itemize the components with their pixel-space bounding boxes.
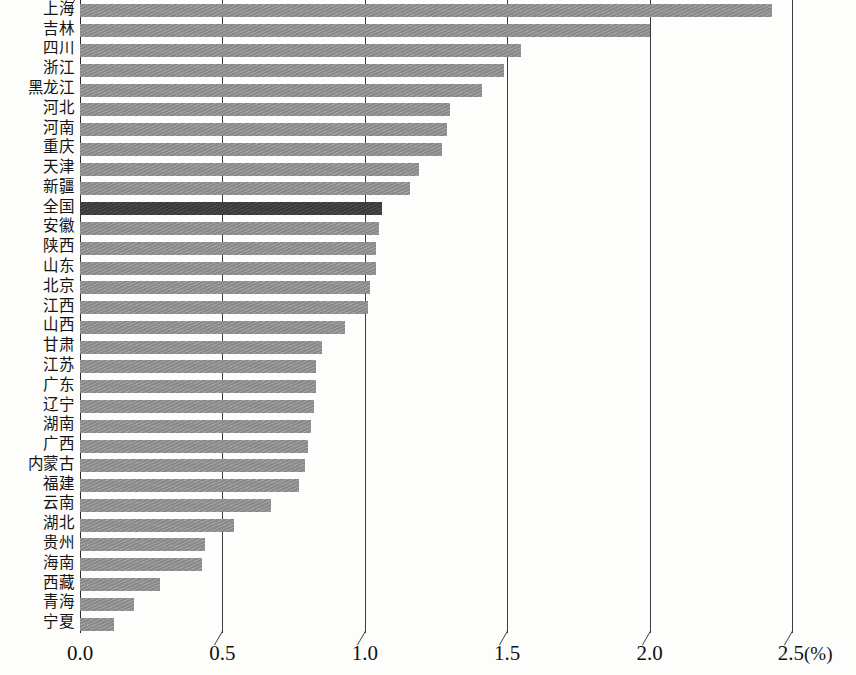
category-label-山西: 山西 bbox=[43, 318, 74, 334]
x-tick-label-0.0: 0.0 bbox=[67, 641, 93, 666]
bar-浙江 bbox=[80, 64, 504, 77]
bar-河北 bbox=[80, 103, 450, 116]
bar-江苏 bbox=[80, 360, 316, 373]
bar-安徽 bbox=[80, 222, 379, 235]
category-label-甘肃: 甘肃 bbox=[43, 338, 74, 354]
category-label-湖南: 湖南 bbox=[43, 417, 74, 433]
category-label-安徽: 安徽 bbox=[43, 219, 74, 235]
x-tick-label-1.0: 1.0 bbox=[352, 641, 378, 666]
bar-湖南 bbox=[80, 420, 311, 433]
category-label-内蒙古: 内蒙古 bbox=[28, 457, 75, 473]
category-label-广东: 广东 bbox=[43, 378, 74, 394]
category-label-北京: 北京 bbox=[43, 279, 74, 295]
category-label-新疆: 新疆 bbox=[43, 180, 74, 196]
x-tick-label-1.5: 1.5 bbox=[494, 641, 520, 666]
gridline-2.0 bbox=[650, 0, 651, 633]
x-tick-label-2.5: 2.5(%) bbox=[778, 641, 833, 666]
bar-黑龙江 bbox=[80, 84, 482, 97]
category-label-全国: 全国 bbox=[43, 200, 74, 216]
bar-海南 bbox=[80, 558, 202, 571]
bar-内蒙古 bbox=[80, 459, 305, 472]
bar-辽宁 bbox=[80, 400, 314, 413]
category-label-海南: 海南 bbox=[43, 556, 74, 572]
category-label-山东: 山东 bbox=[43, 259, 74, 275]
category-label-青海: 青海 bbox=[43, 595, 74, 611]
bar-宁夏 bbox=[80, 618, 114, 631]
category-label-河北: 河北 bbox=[43, 101, 74, 117]
category-label-天津: 天津 bbox=[43, 160, 74, 176]
category-label-四川: 四川 bbox=[43, 41, 74, 57]
category-label-重庆: 重庆 bbox=[43, 140, 74, 156]
bar-广西 bbox=[80, 440, 308, 453]
plot-area bbox=[80, 0, 792, 633]
bar-西藏 bbox=[80, 578, 160, 591]
category-label-云南: 云南 bbox=[43, 496, 74, 512]
bar-河南 bbox=[80, 123, 447, 136]
category-label-湖北: 湖北 bbox=[43, 516, 74, 532]
category-axis-labels: 上海吉林四川浙江黑龙江河北河南重庆天津新疆全国安徽陕西山东北京江西山西甘肃江苏广… bbox=[0, 0, 78, 633]
category-label-辽宁: 辽宁 bbox=[43, 398, 74, 414]
bar-北京 bbox=[80, 281, 370, 294]
category-label-宁夏: 宁夏 bbox=[43, 615, 74, 631]
category-label-浙江: 浙江 bbox=[43, 61, 74, 77]
bar-山西 bbox=[80, 321, 345, 334]
category-label-河南: 河南 bbox=[43, 121, 74, 137]
category-label-黑龙江: 黑龙江 bbox=[28, 81, 75, 97]
category-label-江西: 江西 bbox=[43, 299, 74, 315]
bar-chart: 上海吉林四川浙江黑龙江河北河南重庆天津新疆全国安徽陕西山东北京江西山西甘肃江苏广… bbox=[0, 0, 856, 675]
bar-天津 bbox=[80, 163, 419, 176]
bar-福建 bbox=[80, 479, 299, 492]
x-tick-label-0.5: 0.5 bbox=[209, 641, 235, 666]
category-label-福建: 福建 bbox=[43, 477, 74, 493]
x-axis: 0.00.51.01.52.02.5(%) bbox=[0, 633, 856, 675]
bar-贵州 bbox=[80, 538, 205, 551]
gridline-2.5 bbox=[792, 0, 793, 633]
bar-江西 bbox=[80, 301, 368, 314]
bar-湖北 bbox=[80, 519, 234, 532]
category-label-贵州: 贵州 bbox=[43, 536, 74, 552]
bar-山东 bbox=[80, 262, 376, 275]
category-label-陕西: 陕西 bbox=[43, 239, 74, 255]
category-label-江苏: 江苏 bbox=[43, 358, 74, 374]
bar-甘肃 bbox=[80, 341, 322, 354]
x-tick-label-2.0: 2.0 bbox=[636, 641, 662, 666]
bar-广东 bbox=[80, 380, 316, 393]
category-label-广西: 广西 bbox=[43, 437, 74, 453]
bar-四川 bbox=[80, 44, 521, 57]
bar-全国 bbox=[80, 202, 382, 215]
category-label-吉林: 吉林 bbox=[43, 22, 74, 38]
bar-云南 bbox=[80, 499, 271, 512]
category-label-西藏: 西藏 bbox=[43, 576, 74, 592]
bar-青海 bbox=[80, 598, 134, 611]
bar-陕西 bbox=[80, 242, 376, 255]
bar-上海 bbox=[80, 4, 772, 17]
bar-新疆 bbox=[80, 182, 410, 195]
bar-重庆 bbox=[80, 143, 442, 156]
gridline-1.5 bbox=[507, 0, 508, 633]
bar-吉林 bbox=[80, 24, 650, 37]
